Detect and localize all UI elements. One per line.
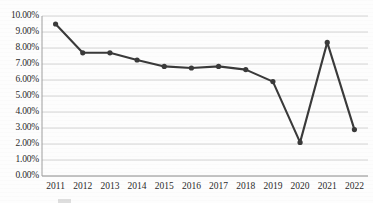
y-axis-tick-label: 4.00% — [15, 107, 39, 117]
chart-plot-area — [0, 0, 373, 203]
gridlines — [42, 16, 368, 176]
y-axis-tick-label: 6.00% — [15, 75, 39, 85]
y-axis-tick-label: 0.00% — [15, 171, 39, 181]
y-axis-tick-label: 8.00% — [15, 43, 39, 53]
y-axis-tick-label: 7.00% — [15, 59, 39, 69]
legend-marker-swatch — [58, 199, 71, 203]
y-axis-tick-label: 10.00% — [11, 11, 39, 21]
data-series-line — [56, 24, 355, 142]
y-axis-tick-label: 3.00% — [15, 123, 39, 133]
y-axis-tick-label: 5.00% — [15, 91, 39, 101]
chart-legend — [58, 198, 208, 203]
data-point-markers — [53, 21, 357, 145]
line-chart: 0.00%1.00%2.00%3.00%4.00%5.00%6.00%7.00%… — [0, 0, 373, 203]
y-axis-tick-label: 1.00% — [15, 155, 39, 165]
x-axis-tick-label: 2022 — [338, 182, 370, 192]
y-axis-tick-label: 2.00% — [15, 139, 39, 149]
y-axis-tick-label: 9.00% — [15, 27, 39, 37]
